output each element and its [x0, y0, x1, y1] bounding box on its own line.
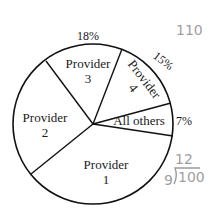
pie-chart: Provider 3 Provider 4 Provider 2 Provide… — [0, 0, 221, 216]
percent-label-provider-3: 18% — [77, 29, 99, 43]
slice-number-provider-3: 3 — [85, 71, 92, 86]
percent-label-all-others: 7% — [176, 114, 192, 128]
slice-number-provider-2: 2 — [42, 125, 49, 140]
slice-label-provider-2: Provider — [23, 110, 68, 125]
slice-label-all-others: All others — [113, 113, 165, 128]
percent-label-provider-4: 15% — [150, 49, 176, 74]
slice-label-provider-1: Provider — [84, 157, 129, 172]
slice-label-provider-3: Provider — [66, 56, 111, 71]
handwritten-dividend: 100 — [178, 169, 205, 185]
handwritten-quotient: 12 — [175, 151, 193, 167]
handwritten-divisor: 9 — [164, 172, 173, 188]
handwritten-110: 110 — [176, 22, 203, 38]
slice-number-provider-1: 1 — [103, 172, 110, 187]
